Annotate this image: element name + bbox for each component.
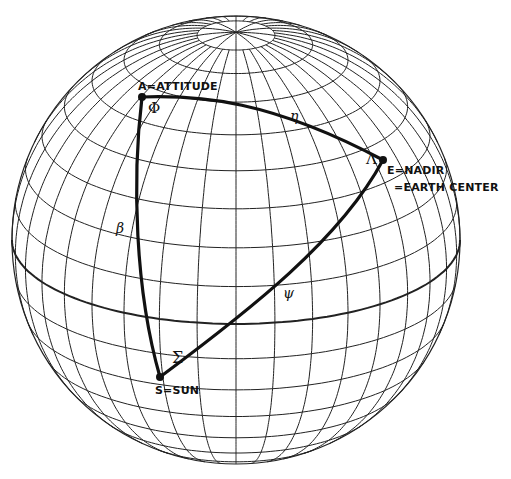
meridian-line xyxy=(274,33,437,142)
angle-lambda-label: Λ xyxy=(366,150,377,168)
meridian-line xyxy=(249,49,312,462)
vertex-e-point xyxy=(379,156,387,164)
arc-psi-label: ψ xyxy=(283,285,294,301)
arc-psi-nadir-to-sun xyxy=(160,160,383,377)
coordinate-grid xyxy=(12,16,460,464)
meridian-line xyxy=(266,45,408,444)
meridian-line xyxy=(221,17,229,22)
meridian-line xyxy=(159,49,222,462)
vertex-a-label: A=ATTITUDE xyxy=(138,80,218,93)
spherical-triangle xyxy=(137,93,387,381)
meridian-line xyxy=(261,47,380,454)
arc-beta-label: β xyxy=(116,220,124,236)
celestial-sphere xyxy=(0,0,511,479)
vertex-e-label-line1: E=NADIR xyxy=(387,164,445,177)
angle-phi-label: Φ xyxy=(148,99,160,117)
angle-sigma-label: Σ xyxy=(172,348,183,367)
meridian-line xyxy=(26,40,200,395)
meridian-line xyxy=(243,17,251,22)
meridian-line xyxy=(273,40,447,395)
arc-eta-label: η xyxy=(290,108,298,124)
arc-eta-attitude-to-nadir xyxy=(142,97,383,160)
vertex-a-point xyxy=(138,93,146,101)
vertex-s-label: S=SUN xyxy=(155,384,199,397)
arc-beta-attitude-to-sun xyxy=(137,97,160,377)
meridian-line xyxy=(197,50,229,464)
vertex-s-point xyxy=(156,373,164,381)
vertex-e-label-line2: =EARTH CENTER xyxy=(394,181,499,194)
